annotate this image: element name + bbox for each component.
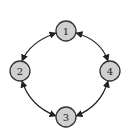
edge-1-2 bbox=[22, 33, 56, 61]
node-1-label: 1 bbox=[63, 26, 69, 37]
node-2: 2 bbox=[10, 61, 30, 81]
node-2-label: 2 bbox=[17, 66, 23, 77]
node-3-label: 3 bbox=[63, 112, 69, 123]
edge-3-4 bbox=[76, 81, 108, 116]
node-3: 3 bbox=[56, 107, 76, 127]
edge-4-1 bbox=[76, 33, 108, 61]
node-1: 1 bbox=[56, 21, 76, 41]
node-4-label: 4 bbox=[107, 66, 113, 77]
edge-2-3 bbox=[22, 81, 56, 116]
node-4: 4 bbox=[100, 61, 120, 81]
cycle-diagram: 1 2 3 4 bbox=[0, 0, 131, 139]
